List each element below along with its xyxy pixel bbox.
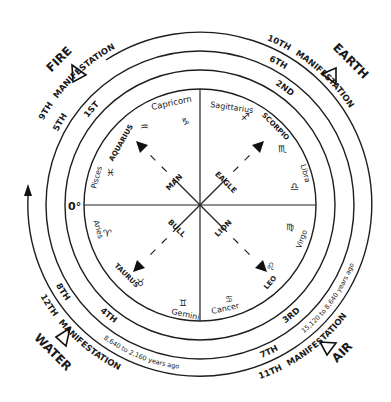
fire-label: FIRE xyxy=(44,44,75,75)
glyph-capricorn: ♑ xyxy=(181,116,190,127)
glyph-pisces: ♓ xyxy=(106,167,115,178)
sign-pisces: Pisces xyxy=(89,165,104,190)
zero-degree-label: 0° xyxy=(68,200,81,213)
sign-virgo: Virgo xyxy=(294,228,309,250)
lower-left-inner-ring-label: 4TH xyxy=(99,305,120,325)
sign-leo: LEO xyxy=(263,274,279,291)
label-man: MAN xyxy=(164,172,184,192)
glyph-libra: ♎ xyxy=(290,181,299,192)
lower-right-inner-ring-label: 3RD xyxy=(281,305,302,325)
arrow-sw-icon xyxy=(133,260,145,272)
glyph-leo: ♌ xyxy=(266,261,275,272)
arrow-nw-icon xyxy=(136,141,148,153)
element-air: AIR xyxy=(320,339,355,365)
glyph-scorpio: ♏ xyxy=(278,143,287,154)
sign-libra: Libra xyxy=(299,163,313,183)
glyph-aries: ♈ xyxy=(103,228,112,239)
glyph-sagittarius: ♐ xyxy=(241,111,250,122)
glyph-virgo: ♍ xyxy=(286,222,294,232)
element-water: WATER xyxy=(31,328,74,374)
sign-capricorn: Capricorn xyxy=(150,94,192,112)
sign-cancer: Cancer xyxy=(211,301,241,316)
glyph-taurus: ♉ xyxy=(136,277,145,288)
zodiac-ages-diagram: MAN EAGLE BULL LION Capricorn ♑ AQUARIUS… xyxy=(0,0,391,402)
outer-arrowhead-icon xyxy=(24,184,32,196)
glyph-aquarius: ♒ xyxy=(140,121,149,132)
label-eagle: EAGLE xyxy=(213,170,238,195)
arrow-ne-icon xyxy=(252,141,264,153)
glyph-gemini: ♊ xyxy=(179,298,187,308)
lower-right-years-label: 15,120 to 8,640 years ago xyxy=(300,262,356,335)
